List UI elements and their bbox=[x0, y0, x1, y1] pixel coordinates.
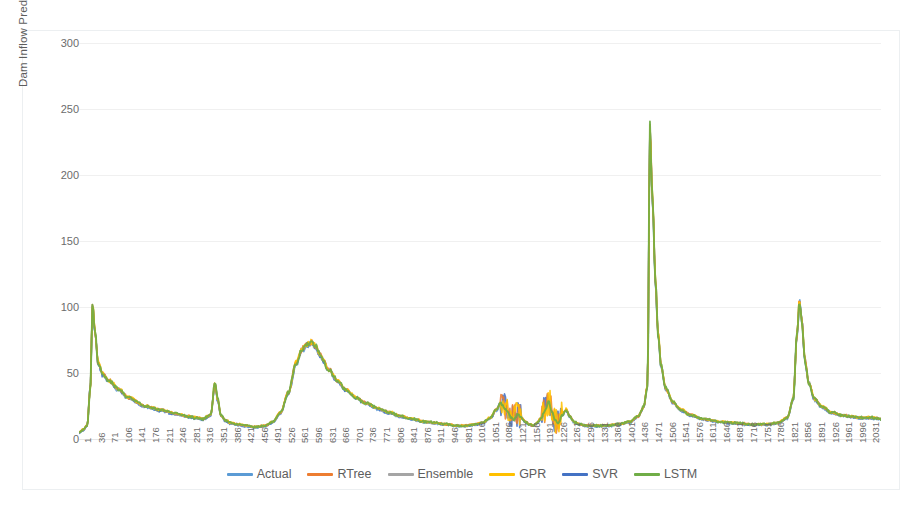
x-tick-label: 71 bbox=[110, 432, 119, 443]
x-tick-label: 1191 bbox=[545, 423, 554, 443]
x-tick-label: 946 bbox=[450, 427, 459, 443]
x-tick-label: 736 bbox=[368, 427, 377, 443]
x-tick-label: 491 bbox=[273, 427, 282, 443]
x-tick-label: 1436 bbox=[640, 422, 649, 443]
x-tick-label: 1016 bbox=[477, 422, 486, 443]
x-tick-label: 701 bbox=[355, 427, 364, 443]
x-tick-label: 421 bbox=[246, 427, 255, 443]
x-tick-label: 1296 bbox=[586, 422, 595, 443]
x-tick-label: 386 bbox=[233, 427, 242, 443]
x-tick-label: 1646 bbox=[722, 422, 731, 443]
x-tick-label: 806 bbox=[396, 427, 405, 443]
x-tick-label: 1856 bbox=[803, 422, 812, 443]
series-line-ensemble bbox=[79, 124, 881, 432]
series-line-actual bbox=[79, 125, 881, 433]
x-tick-label: 456 bbox=[260, 427, 269, 443]
x-tick-label: 1961 bbox=[844, 422, 853, 443]
x-tick-label: 316 bbox=[205, 427, 214, 443]
x-tick-label: 141 bbox=[137, 427, 146, 443]
x-tick-label: 1121 bbox=[518, 423, 527, 443]
x-tick-label: 1541 bbox=[681, 422, 690, 443]
series-lines bbox=[79, 43, 881, 439]
legend-swatch-icon bbox=[307, 473, 333, 476]
x-tick-label: 1821 bbox=[790, 422, 799, 443]
y-tick-label: 0 bbox=[49, 434, 79, 444]
chart-legend: ActualRTreeEnsembleGPRSVRLSTM bbox=[23, 463, 901, 485]
legend-item-rtree[interactable]: RTree bbox=[307, 468, 371, 481]
x-tick-label: 841 bbox=[409, 427, 418, 443]
chart-container: Dam Inflow Prediction (cubic meter /s) 0… bbox=[22, 30, 900, 490]
y-tick-label: 100 bbox=[49, 302, 79, 312]
x-tick-label: 771 bbox=[382, 427, 391, 443]
legend-item-svr[interactable]: SVR bbox=[562, 468, 618, 481]
x-tick-label: 1996 bbox=[858, 422, 867, 443]
series-line-rtree bbox=[79, 136, 881, 433]
x-tick-label: 631 bbox=[328, 427, 337, 443]
y-tick-label: 300 bbox=[49, 38, 79, 48]
x-tick-label: 1051 bbox=[491, 422, 500, 443]
x-tick-label: 1156 bbox=[532, 423, 541, 443]
x-tick-label: 1401 bbox=[627, 422, 636, 443]
x-tick-label: 2031 bbox=[871, 422, 880, 443]
legend-label: Ensemble bbox=[418, 468, 474, 481]
legend-swatch-icon bbox=[634, 473, 660, 476]
legend-label: GPR bbox=[519, 468, 546, 481]
x-tick-label: 1331 bbox=[600, 422, 609, 443]
x-tick-label: 1226 bbox=[559, 422, 568, 443]
x-tick-label: 1716 bbox=[749, 422, 758, 443]
x-tick-label: 1 bbox=[83, 438, 92, 443]
x-tick-label: 1086 bbox=[504, 422, 513, 443]
x-tick-label: 1786 bbox=[776, 422, 785, 443]
y-tick-label: 200 bbox=[49, 170, 79, 180]
legend-label: RTree bbox=[337, 468, 371, 481]
y-axis-tick-labels: 050100150200250300 bbox=[47, 31, 79, 491]
x-tick-label: 561 bbox=[300, 427, 309, 443]
legend-label: LSTM bbox=[664, 468, 697, 481]
legend-label: Actual bbox=[257, 468, 292, 481]
x-tick-label: 1261 bbox=[572, 422, 581, 443]
x-tick-label: 246 bbox=[178, 427, 187, 443]
x-tick-label: 176 bbox=[151, 427, 160, 443]
x-tick-label: 1366 bbox=[613, 422, 622, 443]
x-tick-label: 211 bbox=[165, 428, 174, 443]
legend-swatch-icon bbox=[227, 473, 253, 476]
x-tick-label: 1891 bbox=[817, 422, 826, 443]
legend-item-actual[interactable]: Actual bbox=[227, 468, 292, 481]
x-tick-label: 666 bbox=[341, 427, 350, 443]
x-tick-label: 1751 bbox=[763, 422, 772, 443]
legend-item-ensemble[interactable]: Ensemble bbox=[388, 468, 474, 481]
series-line-gpr bbox=[79, 125, 881, 433]
legend-swatch-icon bbox=[388, 473, 414, 476]
y-tick-label: 250 bbox=[49, 104, 79, 114]
y-axis-title: Dam Inflow Prediction (cubic meter /s) bbox=[17, 0, 35, 127]
plot-area bbox=[79, 43, 881, 439]
x-tick-label: 1926 bbox=[831, 422, 840, 443]
x-tick-label: 36 bbox=[97, 432, 106, 443]
x-tick-label: 1506 bbox=[668, 422, 677, 443]
x-tick-label: 876 bbox=[423, 427, 432, 443]
y-tick-label: 150 bbox=[49, 236, 79, 246]
x-tick-label: 281 bbox=[192, 427, 201, 443]
x-tick-label: 1611 bbox=[708, 423, 717, 443]
x-tick-label: 351 bbox=[219, 427, 228, 443]
legend-item-gpr[interactable]: GPR bbox=[489, 468, 546, 481]
y-tick-label: 50 bbox=[49, 368, 79, 378]
legend-swatch-icon bbox=[489, 473, 515, 476]
x-tick-label: 526 bbox=[287, 427, 296, 443]
series-line-svr bbox=[79, 125, 881, 433]
x-tick-label: 981 bbox=[464, 427, 473, 443]
legend-item-lstm[interactable]: LSTM bbox=[634, 468, 697, 481]
legend-label: SVR bbox=[592, 468, 618, 481]
x-tick-label: 106 bbox=[124, 427, 133, 443]
series-line-lstm bbox=[79, 122, 881, 433]
x-tick-label: 1681 bbox=[735, 422, 744, 443]
legend-swatch-icon bbox=[562, 473, 588, 476]
x-tick-label: 1471 bbox=[654, 422, 663, 443]
x-tick-label: 911 bbox=[436, 428, 445, 443]
x-tick-label: 1576 bbox=[695, 422, 704, 443]
x-tick-label: 596 bbox=[314, 427, 323, 443]
